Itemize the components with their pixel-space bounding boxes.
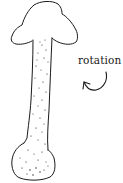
- bone-shaft-right: [48, 38, 52, 150]
- diagram-canvas: rotation: [0, 0, 123, 183]
- rotation-label: rotation: [78, 54, 121, 66]
- bone-shaft-left: [24, 40, 33, 143]
- bone-stipple-texture: [20, 40, 49, 176]
- bone-head-outline: [11, 1, 77, 44]
- rotation-arrow-icon: [83, 72, 107, 90]
- bone-illustration: [0, 0, 123, 183]
